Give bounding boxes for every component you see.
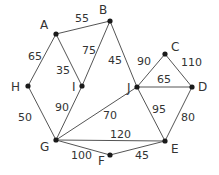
node-j — [134, 84, 139, 89]
node-labels-layer: ABCDEFGHIJ — [11, 3, 207, 168]
edge-weight-j-d: 65 — [157, 73, 171, 86]
node-label-b: B — [99, 3, 107, 17]
node-label-e: E — [171, 142, 179, 156]
edge-a-i — [56, 34, 82, 86]
node-label-h: H — [11, 80, 20, 94]
node-label-d: D — [198, 80, 207, 94]
edge-weight-b-j: 45 — [108, 54, 122, 67]
node-label-i: I — [72, 80, 76, 94]
edge-weight-a-b: 55 — [75, 12, 89, 25]
node-d — [189, 84, 194, 89]
edge-weight-g-e: 120 — [110, 128, 131, 141]
edge-weight-d-e: 80 — [181, 111, 195, 124]
node-h — [25, 83, 30, 88]
edge-h-g — [28, 86, 56, 140]
node-a — [53, 31, 58, 36]
node-b — [107, 18, 112, 23]
weighted-graph-diagram: 55653575459011065958050907012010045 ABCD… — [0, 0, 219, 175]
node-label-g: G — [40, 140, 49, 154]
edge-weight-b-i: 75 — [82, 44, 96, 57]
node-label-j: J — [126, 81, 131, 95]
node-e — [162, 138, 167, 143]
edge-weight-c-d: 110 — [181, 56, 202, 69]
edge-weight-g-f: 100 — [71, 149, 92, 162]
edge-weight-j-e: 95 — [152, 103, 166, 116]
edge-weight-f-e: 45 — [135, 149, 149, 162]
edge-weight-a-i: 35 — [56, 64, 70, 77]
node-i — [79, 83, 84, 88]
node-f — [107, 152, 112, 157]
node-label-f: F — [98, 154, 105, 168]
edge-weight-h-g: 50 — [18, 111, 32, 124]
edge-weight-c-j: 90 — [137, 55, 151, 68]
node-label-a: A — [40, 18, 49, 32]
node-label-c: C — [171, 40, 179, 54]
edge-weight-i-g: 90 — [55, 101, 69, 114]
edge-weight-a-h: 65 — [28, 50, 42, 63]
node-c — [162, 51, 167, 56]
edge-weight-g-j: 70 — [103, 109, 117, 122]
node-g — [53, 137, 58, 142]
